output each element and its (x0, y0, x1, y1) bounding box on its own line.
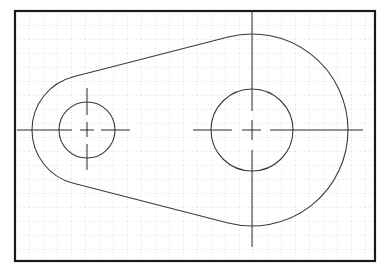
cad-drawing-canvas (0, 0, 386, 276)
drawing-area (15, 11, 375, 261)
dotted-grid (15, 11, 375, 261)
